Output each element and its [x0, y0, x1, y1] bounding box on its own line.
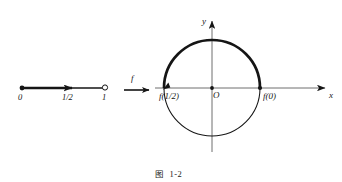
endpoint-closed-zero — [20, 86, 25, 91]
point-f-zero-marker — [258, 86, 262, 90]
caption-number: 1-2 — [170, 169, 183, 179]
endpoint-open-one — [102, 85, 107, 90]
origin-label: O — [213, 91, 220, 100]
label-f-half: f(1/2) — [159, 92, 179, 101]
figure-caption: 图1-2 — [155, 167, 182, 179]
domain-interval-group — [20, 85, 108, 91]
interval-label-half: 1/2 — [62, 93, 73, 102]
coordinate-plane-group — [155, 21, 325, 152]
mapping-label-f: f — [131, 74, 134, 83]
y-axis-label: y — [202, 17, 206, 26]
interval-label-one: 1 — [102, 93, 106, 102]
label-f-zero: f(0) — [263, 92, 276, 101]
x-axis-label: x — [329, 91, 333, 100]
caption-prefix: 图 — [155, 169, 165, 179]
interval-label-zero: 0 — [18, 93, 22, 102]
figure-1-2: 0 1/2 1 f f(1/2) O f(0) x y 图1-2 — [0, 0, 342, 182]
